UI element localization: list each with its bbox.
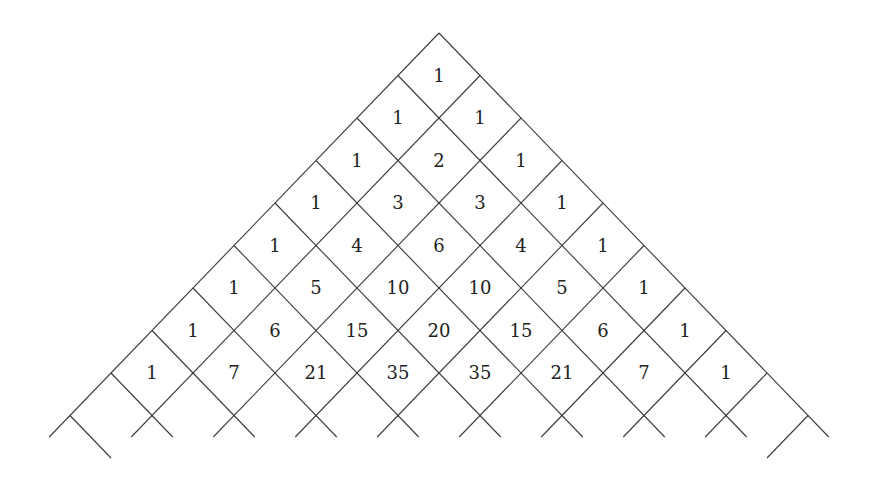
grid-line-down-left	[459, 246, 644, 438]
cell-value: 1	[515, 150, 526, 171]
grid-line-down-right	[234, 246, 419, 438]
cell-value: 2	[433, 150, 444, 171]
cell-value: 5	[310, 277, 321, 298]
grid-line-down-right	[70, 416, 111, 459]
cell-value: 4	[351, 235, 362, 256]
grid-line-down-right	[275, 203, 501, 437]
cell-value: 1	[187, 320, 198, 341]
cell-value: 35	[387, 362, 410, 383]
cell-value: 6	[597, 320, 608, 341]
cell-value: 7	[638, 362, 649, 383]
cell-value: 20	[428, 320, 451, 341]
cell-value: 6	[269, 320, 280, 341]
cell-value: 15	[510, 320, 533, 341]
grid-line-down-right	[316, 161, 583, 438]
cell-value: 7	[228, 362, 239, 383]
cell-value: 1	[638, 277, 649, 298]
grid-line-down-left	[49, 33, 439, 437]
cell-value: 10	[387, 277, 410, 298]
cell-value: 1	[310, 192, 321, 213]
cell-value: 1	[228, 277, 239, 298]
grid-line-down-left	[623, 331, 726, 438]
cell-value: 1	[269, 235, 280, 256]
grid-line-down-right	[111, 373, 173, 437]
cell-value: 4	[515, 235, 526, 256]
grid-line-down-right	[439, 33, 829, 437]
cell-value: 1	[433, 65, 444, 86]
cell-value: 21	[551, 362, 574, 383]
cell-value: 1	[597, 235, 608, 256]
cell-value: 6	[433, 235, 444, 256]
cell-value: 1	[474, 107, 485, 128]
grid-line-down-right	[152, 331, 255, 438]
cell-values: 1111211331146411510105116152015611721353…	[146, 65, 731, 384]
cell-value: 10	[469, 277, 492, 298]
grid-line-down-left	[705, 373, 767, 437]
cell-value: 1	[679, 320, 690, 341]
cell-value: 1	[392, 107, 403, 128]
cell-value: 21	[305, 362, 328, 383]
cell-value: 35	[469, 362, 492, 383]
grid-line-down-left	[295, 161, 562, 438]
cell-value: 1	[720, 362, 731, 383]
pascal-triangle-diagram: 1111211331146411510105116152015611721353…	[0, 0, 875, 483]
cell-value: 1	[351, 150, 362, 171]
cell-value: 15	[346, 320, 369, 341]
cell-value: 1	[556, 192, 567, 213]
grid-line-down-left	[767, 416, 808, 459]
cell-value: 3	[474, 192, 485, 213]
cell-value: 5	[556, 277, 567, 298]
grid-line-down-left	[377, 203, 603, 437]
cell-value: 1	[146, 362, 157, 383]
cell-value: 3	[392, 192, 403, 213]
